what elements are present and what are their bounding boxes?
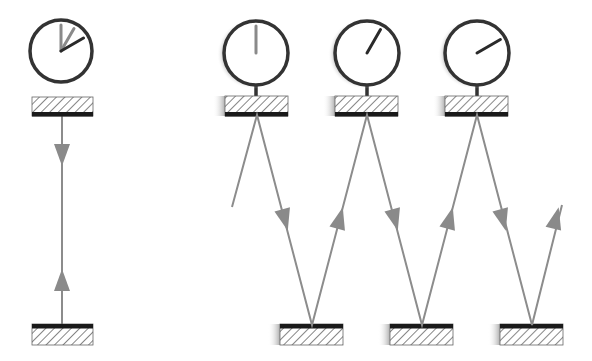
mirror-shadow bbox=[268, 324, 280, 345]
clock-icon bbox=[328, 19, 399, 89]
mirror bbox=[268, 324, 343, 345]
arrowhead-icon bbox=[54, 144, 70, 166]
mirror-shadow bbox=[378, 324, 390, 345]
mirror-shadow bbox=[323, 96, 335, 116]
clock-icon bbox=[217, 19, 288, 89]
arrowhead-icon bbox=[492, 207, 507, 230]
arrowhead-icon bbox=[384, 207, 399, 230]
mirror bbox=[378, 324, 453, 345]
mirror-shadow bbox=[488, 324, 500, 345]
mirror-surface bbox=[32, 112, 93, 117]
arrowhead-icon bbox=[546, 207, 562, 230]
mirror-shadow bbox=[213, 96, 225, 116]
mirror-surface bbox=[32, 324, 93, 329]
mirror bbox=[213, 96, 288, 117]
clock-icon bbox=[30, 20, 92, 82]
stationary-clock bbox=[30, 20, 93, 345]
arrowhead-icon bbox=[439, 207, 454, 230]
mirror bbox=[433, 96, 508, 117]
mirror bbox=[32, 324, 93, 345]
arrowhead-icon bbox=[329, 207, 344, 230]
mirror-shadow bbox=[433, 96, 445, 116]
clock-icon bbox=[438, 19, 509, 89]
mirror bbox=[323, 96, 398, 117]
arrowhead-icon bbox=[54, 269, 70, 291]
light-clock-diagram bbox=[0, 0, 592, 361]
mirror bbox=[488, 324, 563, 345]
arrowhead-icon bbox=[274, 207, 289, 230]
moving-clocks bbox=[213, 19, 563, 345]
light-path bbox=[232, 115, 562, 325]
mirror bbox=[32, 97, 93, 117]
